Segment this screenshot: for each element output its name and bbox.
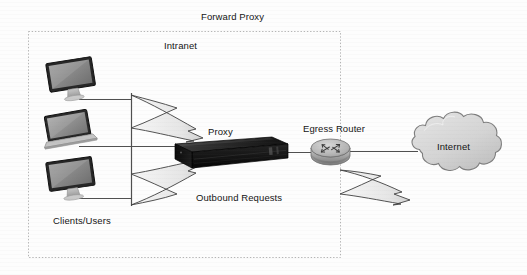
desktop-monitor-icon (46, 57, 98, 104)
desktop-monitor-icon (46, 156, 97, 203)
internet-node-label: Internet (437, 142, 470, 152)
intranet-zone-label: Intranet (164, 41, 197, 51)
outbound-requests-label: Outbound Requests (196, 193, 282, 203)
laptop-icon (39, 108, 97, 149)
router-icon (311, 139, 350, 165)
proxy-node-label: Proxy (208, 127, 233, 137)
forward-proxy-diagram (0, 0, 527, 275)
clients-users-label: Clients/Users (53, 216, 111, 226)
outbound-arrow-upper (131, 95, 203, 142)
diagram-canvas: Forward Proxy Intranet Proxy Egress Rout… (0, 0, 527, 275)
egress-router-node-label: Egress Router (303, 124, 365, 134)
page-title: Forward Proxy (201, 12, 264, 22)
egress-arrow (340, 170, 410, 205)
